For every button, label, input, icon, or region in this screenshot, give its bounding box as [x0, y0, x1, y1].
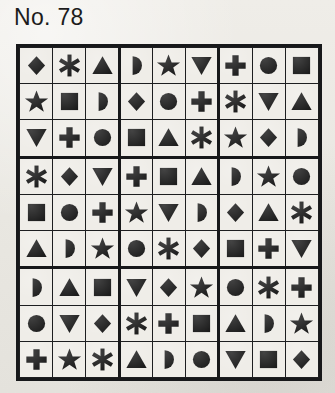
- grid-cell[interactable]: [186, 230, 219, 267]
- grid-cell[interactable]: [285, 120, 318, 157]
- grid-cell[interactable]: [86, 305, 119, 341]
- grid-cell[interactable]: [53, 268, 86, 305]
- grid-cell[interactable]: [119, 341, 152, 377]
- grid-cell-symbol: [86, 342, 117, 377]
- grid-cell[interactable]: [219, 157, 252, 194]
- grid-cell[interactable]: [119, 230, 152, 267]
- grid-cell[interactable]: [119, 268, 152, 305]
- plus-icon: [223, 53, 248, 78]
- square-icon: [90, 275, 115, 300]
- grid-cell[interactable]: [152, 194, 185, 230]
- grid-cell[interactable]: [86, 157, 119, 194]
- grid-cell[interactable]: [152, 120, 185, 157]
- grid-cell[interactable]: [152, 48, 185, 84]
- grid-cell[interactable]: [219, 268, 252, 305]
- grid-cell[interactable]: [53, 305, 86, 341]
- square-icon: [256, 347, 281, 372]
- grid-cell[interactable]: [186, 157, 219, 194]
- grid-cell[interactable]: [152, 230, 185, 267]
- grid-cell[interactable]: [252, 120, 285, 157]
- grid-cell[interactable]: [119, 194, 152, 230]
- circle-icon: [156, 89, 181, 114]
- grid-cell[interactable]: [252, 268, 285, 305]
- grid-cell[interactable]: [119, 48, 152, 84]
- star-icon: [223, 125, 248, 150]
- grid-cell[interactable]: [152, 268, 185, 305]
- grid-cell[interactable]: [285, 305, 318, 341]
- grid-cell[interactable]: [53, 230, 86, 267]
- grid-cell[interactable]: [53, 84, 86, 120]
- grid-cell[interactable]: [186, 84, 219, 120]
- grid-cell[interactable]: [186, 120, 219, 157]
- grid-cell-symbol: [286, 84, 318, 119]
- puzzle-grid: [19, 47, 319, 378]
- grid-cell[interactable]: [186, 268, 219, 305]
- grid-cell[interactable]: [119, 305, 152, 341]
- grid-cell[interactable]: [252, 48, 285, 84]
- grid-cell[interactable]: [20, 230, 53, 267]
- grid-cell[interactable]: [86, 341, 119, 377]
- grid-cell[interactable]: [20, 84, 53, 120]
- grid-cell[interactable]: [186, 305, 219, 341]
- grid-cell[interactable]: [119, 120, 152, 157]
- grid-cell-symbol: [220, 195, 251, 230]
- grid-cell[interactable]: [285, 48, 318, 84]
- grid-cell[interactable]: [252, 230, 285, 267]
- grid-cell[interactable]: [219, 305, 252, 341]
- grid-cell[interactable]: [86, 268, 119, 305]
- grid-cell[interactable]: [119, 157, 152, 194]
- grid-cell[interactable]: [285, 230, 318, 267]
- grid-cell[interactable]: [285, 157, 318, 194]
- grid-cell[interactable]: [53, 120, 86, 157]
- star-icon: [90, 236, 115, 261]
- grid-cell[interactable]: [20, 157, 53, 194]
- grid-cell[interactable]: [86, 194, 119, 230]
- grid-cell[interactable]: [152, 157, 185, 194]
- grid-cell[interactable]: [186, 48, 219, 84]
- grid-cell[interactable]: [20, 48, 53, 84]
- grid-cell[interactable]: [285, 84, 318, 120]
- grid-cell[interactable]: [252, 84, 285, 120]
- grid-row: [20, 84, 319, 120]
- grid-cell[interactable]: [186, 194, 219, 230]
- grid-cell[interactable]: [86, 230, 119, 267]
- grid-cell[interactable]: [86, 84, 119, 120]
- grid-cell[interactable]: [285, 194, 318, 230]
- grid-cell[interactable]: [252, 157, 285, 194]
- grid-cell-symbol: [253, 195, 285, 230]
- grid-cell[interactable]: [152, 84, 185, 120]
- grid-cell[interactable]: [219, 120, 252, 157]
- grid-cell[interactable]: [86, 120, 119, 157]
- grid-cell[interactable]: [53, 341, 86, 377]
- grid-cell[interactable]: [186, 341, 219, 377]
- grid-cell[interactable]: [20, 268, 53, 305]
- grid-cell-symbol: [121, 342, 152, 377]
- grid-cell[interactable]: [152, 341, 185, 377]
- grid-cell[interactable]: [219, 48, 252, 84]
- half-circle-icon: [289, 125, 314, 150]
- grid-cell[interactable]: [20, 341, 53, 377]
- grid-cell[interactable]: [252, 305, 285, 341]
- grid-cell[interactable]: [20, 194, 53, 230]
- grid-cell[interactable]: [119, 84, 152, 120]
- grid-cell[interactable]: [219, 230, 252, 267]
- grid-cell[interactable]: [53, 157, 86, 194]
- grid-cell[interactable]: [53, 194, 86, 230]
- grid-cell[interactable]: [219, 84, 252, 120]
- grid-cell-symbol: [286, 195, 318, 230]
- grid-cell[interactable]: [219, 341, 252, 377]
- grid-cell[interactable]: [252, 341, 285, 377]
- grid-cell-symbol: [186, 269, 217, 304]
- grid-cell[interactable]: [152, 305, 185, 341]
- grid-cell[interactable]: [20, 120, 53, 157]
- grid-cell[interactable]: [86, 48, 119, 84]
- grid-cell[interactable]: [20, 305, 53, 341]
- grid-cell[interactable]: [252, 194, 285, 230]
- grid-cell[interactable]: [285, 341, 318, 377]
- grid-cell[interactable]: [285, 268, 318, 305]
- triangle-up-icon: [57, 275, 82, 300]
- grid-cell[interactable]: [53, 48, 86, 84]
- grid-cell-symbol: [186, 120, 217, 155]
- grid-cell[interactable]: [219, 194, 252, 230]
- star-icon: [156, 53, 181, 78]
